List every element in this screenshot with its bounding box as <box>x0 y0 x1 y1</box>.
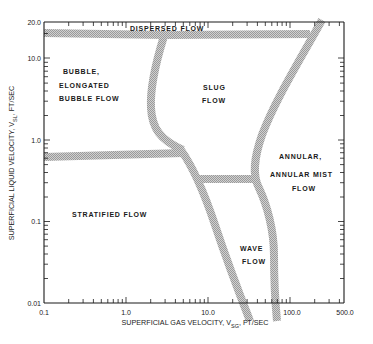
boundary-dispersed <box>44 33 310 35</box>
boundary-bubble-stratified <box>44 153 183 157</box>
label-dispersed-flow: DISPERSED FLOW <box>130 25 204 32</box>
label-slug-line2: FLOW <box>202 97 226 104</box>
label-wave-line2: FLOW <box>242 258 266 265</box>
y-tick-10: 10.0 <box>27 55 41 62</box>
region-labels: DISPERSED FLOW BUBBLE, ELONGATED BUBBLE … <box>59 25 333 265</box>
y-tick-labels: 0.01 0.1 1.0 10.0 20.0 <box>27 19 41 307</box>
x-tick-labels: 0.1 1.0 10.0 100.0 500.0 <box>39 309 354 316</box>
label-bubble-line2: ELONGATED <box>59 82 110 89</box>
flow-regime-map: 0.1 1.0 10.0 100.0 500.0 0.01 0.1 1.0 10… <box>0 0 373 344</box>
label-annular-line1: ANNULAR, <box>279 153 322 161</box>
label-bubble-line3: BUBBLE FLOW <box>59 95 120 102</box>
y-tick-20: 20.0 <box>27 19 41 26</box>
x-tick-0.1: 0.1 <box>39 309 49 316</box>
x-axis-title: SUPERFICIAL GAS VELOCITY, VSG, FT/SEC <box>122 318 269 329</box>
x-tick-500: 500.0 <box>336 309 354 316</box>
y-tick-0.01: 0.01 <box>27 300 41 307</box>
label-bubble-line1: BUBBLE, <box>63 68 100 76</box>
label-annular-line3: FLOW <box>292 185 316 192</box>
label-annular-line2: ANNULAR MIST <box>270 171 333 178</box>
x-minor-ticks <box>69 297 340 303</box>
x-tick-10: 10.0 <box>201 309 215 316</box>
y-tick-1: 1.0 <box>31 137 41 144</box>
label-wave-line1: WAVE <box>240 245 263 252</box>
y-axis-title: SUPERFICIAL LIQUID VELOCITY, VSL, FT/SEC <box>7 86 18 241</box>
right-minor-ticks <box>338 58 344 279</box>
label-slug-line1: SLUG <box>203 84 226 91</box>
y-tick-0.1: 0.1 <box>31 218 41 225</box>
boundary-bubble-slug <box>151 36 183 150</box>
x-tick-1: 1.0 <box>121 309 131 316</box>
x-tick-100: 100.0 <box>283 309 301 316</box>
label-stratified-flow: STRATIFIED FLOW <box>72 211 147 218</box>
